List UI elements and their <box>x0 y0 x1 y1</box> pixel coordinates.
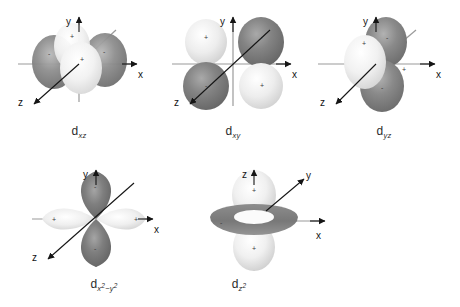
axis-label-x: x <box>154 224 159 235</box>
axis-label-y: y <box>220 16 225 27</box>
axis-label-x: x <box>138 69 143 80</box>
orbital-label-dxy: dxy <box>158 124 308 140</box>
d-yz-diagram: y x z + - - + <box>310 6 458 126</box>
axis-label-y: y <box>83 169 88 180</box>
axis-label-z: z <box>32 252 37 263</box>
orbital-label-subscript: xy <box>232 131 240 140</box>
lobe-sign: + <box>252 187 256 194</box>
axis-label-x: x <box>316 230 321 241</box>
orbital-label-subscript: xz <box>78 131 86 140</box>
axis-label-z: z <box>174 97 179 108</box>
lobe-sign: + <box>252 245 256 252</box>
axis-label-y: y <box>66 16 71 27</box>
lobe-dark-top-right <box>238 17 284 67</box>
lobe-sign: + <box>70 33 74 40</box>
axis-label-z: z <box>242 169 247 180</box>
d-xz-diagram: y x z + - + - <box>4 6 154 126</box>
lobe-sign: + <box>80 56 84 63</box>
orbital-figure-dxz: y x z + - + - dxz <box>4 6 154 146</box>
axis-label-x: x <box>292 69 297 80</box>
torus-inner-hole <box>234 210 274 224</box>
orbital-label-dz2: dz2 <box>154 277 324 293</box>
lobe-sign: + <box>362 40 366 47</box>
orbital-label-subscript: yz <box>383 131 391 140</box>
orbital-label-dxz: dxz <box>4 124 154 140</box>
axis-label-x: x <box>436 69 441 80</box>
orbital-label-dyz: dyz <box>310 124 458 140</box>
axis-label-y: y <box>363 16 368 27</box>
axis-label-y: y <box>306 170 311 181</box>
lobe-sign: + <box>402 66 406 73</box>
orbital-label-subscript: x2−y2 <box>97 284 117 293</box>
orbital-figure-dxy: y x z + - - + dxy <box>158 6 308 146</box>
axis-label-z: z <box>18 97 23 108</box>
orbital-figure-dz2: z y x + + - dz2 <box>206 163 376 305</box>
lobe-light-front <box>60 42 102 94</box>
lobe-light-left <box>42 208 96 229</box>
d-xy-diagram: y x z + - - + <box>158 6 308 126</box>
lobe-sign: + <box>204 34 208 41</box>
d-x2-y2-diagram: y x z - - + + <box>24 163 184 281</box>
orbital-label-subscript: z2 <box>239 284 247 293</box>
orbital-label-base: d <box>232 277 239 291</box>
d-z2-diagram: z y x + + - <box>206 163 376 281</box>
axis-label-z: z <box>320 97 325 108</box>
lobe-sign: + <box>260 82 264 89</box>
lobe-sign: + <box>52 216 56 223</box>
orbital-figure-dyz: y x z + - - + dyz <box>310 6 458 146</box>
lobe-sign: + <box>134 216 138 223</box>
